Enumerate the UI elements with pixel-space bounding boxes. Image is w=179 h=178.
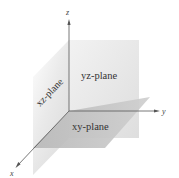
z-axis-label: z — [65, 8, 70, 17]
x-axis-label: x — [9, 169, 14, 178]
coordinate-planes-diagram: z y x yz-plane xz-plane xy-plane — [0, 0, 179, 178]
yz-plane-label: yz-plane — [81, 70, 117, 81]
y-arrow-icon — [154, 109, 160, 112]
z-arrow-icon — [67, 19, 70, 25]
y-axis-label: y — [161, 107, 166, 116]
xy-plane-label: xy-plane — [72, 121, 109, 132]
xz-plane — [33, 40, 69, 175]
